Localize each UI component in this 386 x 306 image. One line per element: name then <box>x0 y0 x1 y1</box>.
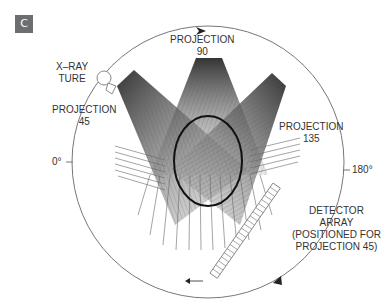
xray-tube-icon <box>97 71 116 94</box>
label-angle-180: 180° <box>352 164 373 176</box>
label-detector-array: DETECTOR ARRAY (POSITIONED FOR PROJECTIO… <box>292 205 381 253</box>
label-projection-90: PROJECTION 90 <box>170 34 234 58</box>
label-projection-45: PROJECTION 45 <box>52 104 116 128</box>
label-xray-tube: X–RAY TURE <box>56 61 88 85</box>
label-projection-135: PROJECTION 135 <box>279 121 343 145</box>
label-angle-0: 0° <box>52 156 62 168</box>
detector-arrow-head-icon <box>185 278 190 284</box>
